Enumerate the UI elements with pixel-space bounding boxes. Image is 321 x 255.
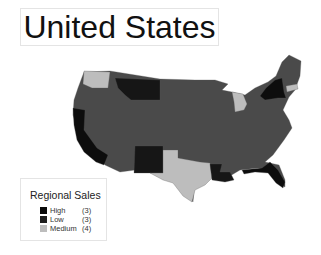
state-washington xyxy=(83,71,110,88)
legend-swatch-low xyxy=(40,216,47,223)
legend-label: Low xyxy=(50,215,82,224)
legend-label: Medium xyxy=(50,224,82,233)
legend-swatch-high xyxy=(40,207,47,214)
legend-count: (3) xyxy=(82,215,91,224)
legend-label: High xyxy=(50,206,82,215)
state-new-mexico xyxy=(134,146,163,173)
legend-title: Regional Sales xyxy=(30,189,101,201)
legend-count: (4) xyxy=(82,224,91,233)
legend-item-high: High (3) xyxy=(40,206,91,215)
legend-item-low: Low (3) xyxy=(40,215,91,224)
legend-swatch-medium xyxy=(40,225,47,232)
legend-item-medium: Medium (4) xyxy=(40,224,91,233)
legend: Regional Sales High (3) Low (3) Medium (… xyxy=(20,178,107,241)
legend-count: (3) xyxy=(82,206,91,215)
